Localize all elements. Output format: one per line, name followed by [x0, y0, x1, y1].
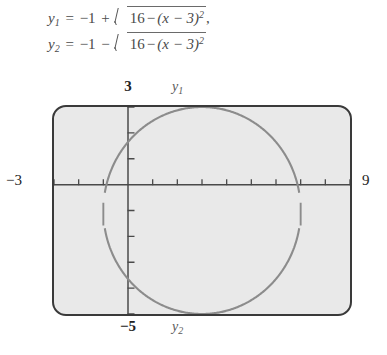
equation-y1-radicand-b: (x − 3): [157, 10, 199, 26]
plot-area: [54, 107, 350, 314]
window-xmax-label: 9: [362, 172, 370, 189]
equation-y2-equals: =: [63, 36, 75, 52]
equation-y2-radical: 16−(x − 3)2: [114, 32, 206, 56]
curve-y2-lower-semicircle: [105, 228, 299, 314]
screen-bezel: [52, 105, 352, 316]
window-ymin-label: −5: [0, 318, 256, 335]
equation-y1-radical: 16−(x − 3)2: [114, 6, 206, 30]
curve-label-y1-subscript: 1: [178, 85, 183, 96]
equation-y2-radicand-a: 16: [130, 36, 145, 52]
curve-label-y1: y1: [172, 79, 183, 96]
equation-line-y1: y1 = −1 +16−(x − 3)2,: [48, 6, 348, 32]
equation-y1-equals: =: [63, 10, 75, 26]
window-xmin-label: −3: [6, 172, 22, 189]
graphing-calculator-screen[interactable]: [52, 105, 352, 316]
equation-y1-radicand-exponent: 2: [199, 9, 204, 20]
curve-label-y2-subscript: 2: [178, 325, 183, 336]
equation-y1-radicand-a: 16: [130, 10, 145, 26]
equation-y2-radicand-b: (x − 3): [157, 36, 199, 52]
equation-block: y1 = −1 +16−(x − 3)2, y2 = −1 −16−(x − 3…: [48, 6, 348, 58]
equation-y1-radicand-minus: −: [145, 10, 157, 26]
equation-y2-sign: −: [99, 36, 111, 52]
equation-y2-radicand-exponent: 2: [199, 35, 204, 46]
equation-y1-lhs: y: [48, 10, 55, 26]
equation-y2-radicand-minus: −: [145, 36, 157, 52]
window-ymax-label: 3: [0, 78, 256, 95]
equation-line-y2: y2 = −1 −16−(x − 3)2: [48, 32, 348, 58]
curve-label-y2: y2: [172, 319, 183, 336]
equation-y2-lhs: y: [48, 36, 55, 52]
equation-y1-radicand: 16−(x − 3)2: [127, 6, 206, 30]
equation-y1-trailing-comma: ,: [206, 10, 210, 26]
equation-y1-sign: +: [99, 10, 111, 26]
equation-y2-radicand: 16−(x − 3)2: [127, 32, 206, 56]
equation-y1-constant: −1: [80, 10, 96, 26]
equation-y1-subscript: 1: [55, 17, 60, 28]
equation-y2-subscript: 2: [55, 43, 60, 54]
equation-y2-constant: −1: [80, 36, 96, 52]
